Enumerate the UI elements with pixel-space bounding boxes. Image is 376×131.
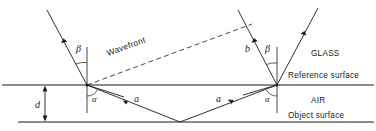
- ray-a-right-segment: [180, 85, 277, 122]
- label-beta-left: β: [75, 43, 81, 54]
- label-object-surface: Object surface: [288, 111, 344, 120]
- optics-diagram-figure: β β α α d a a b Wavefront GLASS AIR Refe…: [0, 0, 376, 131]
- arc-beta-right: [267, 63, 278, 65]
- normal-lines-group: [87, 47, 277, 113]
- label-gap-d: d: [35, 99, 41, 110]
- label-alpha-right: α: [265, 94, 270, 104]
- incoming-ray-right: [238, 10, 277, 85]
- diagram-canvas: β β α α d a a b Wavefront GLASS AIR Refe…: [0, 0, 376, 131]
- label-ray-b: b: [245, 43, 250, 54]
- label-beta-right: β: [264, 43, 270, 54]
- text-label-group: β β α α d a a b Wavefront GLASS AIR Refe…: [35, 34, 359, 120]
- label-alpha-left: α: [92, 94, 97, 104]
- arc-beta-left: [76, 62, 87, 64]
- label-wavefront: Wavefront: [105, 34, 147, 57]
- label-glass-region: GLASS: [311, 49, 340, 58]
- node-dot-right: [276, 84, 279, 87]
- label-reference-surface: Reference surface: [288, 71, 359, 80]
- arrowhead-gap-bottom: [43, 116, 48, 122]
- arrowhead-gap-top: [43, 86, 48, 92]
- label-air-region: AIR: [311, 96, 325, 105]
- label-ray-a-right: a: [216, 93, 221, 104]
- incoming-ray-left: [47, 10, 87, 85]
- gap-dimension-group: [43, 86, 48, 122]
- label-ray-a-left: a: [134, 93, 139, 104]
- alpha-leg-right: [243, 85, 277, 95]
- node-dot-left: [86, 84, 89, 87]
